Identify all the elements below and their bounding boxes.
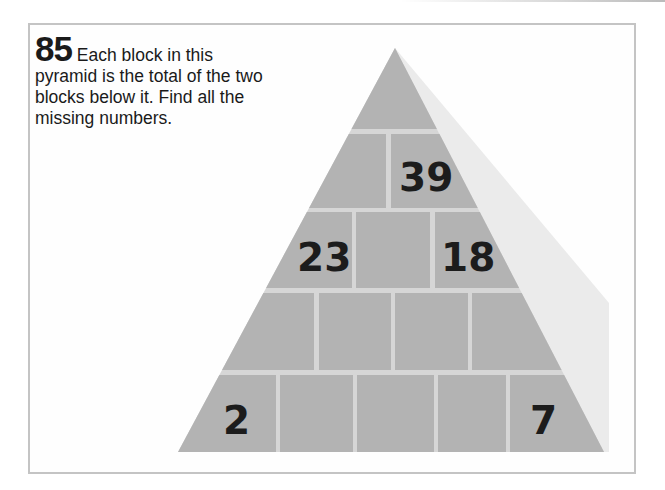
block-r1b1	[150, 40, 650, 129]
value-r3b3: 18	[441, 235, 495, 280]
block-r4b2	[319, 293, 391, 370]
pyramid-diagram: 39 23 18 2 7	[0, 0, 665, 490]
block-r4b1	[150, 293, 314, 370]
block-r4b3	[395, 293, 468, 370]
block-r5b1	[150, 375, 276, 452]
block-r5b3	[357, 375, 434, 452]
block-r2b1	[150, 134, 386, 208]
value-r5b1: 2	[223, 398, 250, 443]
value-r3b1: 23	[297, 235, 351, 280]
block-r3b2	[356, 212, 430, 288]
block-r5b4	[438, 375, 506, 452]
value-r5b5: 7	[530, 398, 557, 443]
block-r5b2	[280, 375, 353, 452]
value-r2b2: 39	[399, 155, 453, 200]
